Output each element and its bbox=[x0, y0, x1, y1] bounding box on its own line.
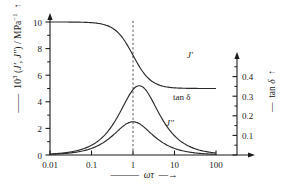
curve-label-j-prime: J' bbox=[187, 50, 194, 60]
x-axis-arrow-icon bbox=[248, 152, 255, 157]
y-axis-right-arrow-icon bbox=[234, 52, 239, 59]
x-tick-10: 10 bbox=[170, 160, 180, 170]
curve-label-j-double-prime: J'' bbox=[166, 118, 175, 128]
x-tick-0.01: 0.01 bbox=[42, 160, 58, 170]
y-tick-right-0.1: 0.1 bbox=[242, 131, 253, 141]
plot-area: 0 2 4 6 8 10 0.01 0.1 1 10 100 bbox=[0, 0, 288, 191]
y-tick-left-0: 0 bbox=[38, 151, 43, 161]
y-tick-left-2: 2 bbox=[38, 124, 43, 134]
x-tick-100: 100 bbox=[209, 160, 223, 170]
x-tick-1: 1 bbox=[131, 160, 136, 170]
y-tick-left-8: 8 bbox=[38, 44, 43, 54]
x-axis: 0.01 0.1 1 10 100 bbox=[42, 151, 255, 171]
y-axis-left: 0 2 4 6 8 10 bbox=[33, 13, 53, 161]
y-tick-right-0.4: 0.4 bbox=[242, 72, 254, 82]
curve-label-tan-delta: tan δ bbox=[173, 92, 191, 102]
y-tick-left-10: 10 bbox=[33, 18, 43, 28]
y-tick-left-6: 6 bbox=[38, 71, 43, 81]
x-tick-0.1: 0.1 bbox=[86, 160, 97, 170]
y-tick-right-0.2: 0.2 bbox=[242, 111, 253, 121]
y-axis-left-arrow-icon bbox=[47, 13, 52, 20]
y-tick-right-0.3: 0.3 bbox=[242, 92, 254, 102]
y-axis-right: 0.1 0.2 0.3 0.4 bbox=[233, 52, 254, 155]
y-tick-left-4: 4 bbox=[38, 97, 43, 107]
